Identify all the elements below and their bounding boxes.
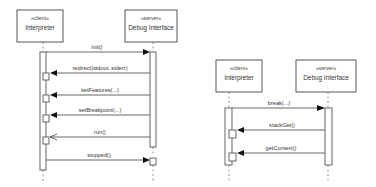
activation-bar — [150, 52, 156, 147]
lifeline-debug-interface: «server» Debug Interface — [125, 10, 177, 182]
filled-arrow-icon — [50, 70, 57, 76]
message-redirect: redirect(stdout, stderr) — [43, 65, 150, 80]
svg-text:setFeatures(...): setFeatures(...) — [81, 87, 119, 93]
stereotype-server: «server» — [141, 15, 161, 21]
lifeline-debug-interface: «server» Debug Interface — [296, 60, 356, 182]
activation-bar — [40, 52, 46, 170]
self-activation — [43, 137, 49, 144]
svg-text:run(): run() — [94, 129, 106, 135]
self-activation — [43, 115, 49, 122]
svg-text:stackGet(): stackGet() — [269, 122, 295, 128]
message-init: init() — [46, 44, 150, 55]
sequence-diagrams: «client» Interpreter «server» Debug Inte… — [0, 0, 376, 187]
message-get-context: getContext() — [229, 145, 325, 161]
filled-arrow-icon — [237, 150, 244, 156]
filled-arrow-icon — [50, 92, 57, 98]
svg-text:redirect(stdout, stderr): redirect(stdout, stderr) — [72, 65, 127, 71]
stereotype-server: «server» — [316, 65, 336, 71]
message-stopped: stopped() — [46, 152, 156, 165]
self-activation — [43, 73, 49, 80]
filled-arrow-icon — [143, 49, 150, 55]
self-activation — [43, 95, 49, 102]
message-set-features: setFeatures(...) — [43, 87, 150, 102]
message-break: break(...) — [232, 100, 325, 111]
filled-arrow-icon — [237, 127, 244, 133]
message-run: run() — [43, 129, 150, 144]
self-activation — [229, 130, 236, 138]
filled-arrow-icon — [50, 112, 57, 118]
lifeline-name: Debug Interface — [303, 74, 349, 82]
svg-text:init(): init() — [92, 44, 103, 50]
stereotype-client: «client» — [31, 15, 49, 21]
activation-bar — [150, 158, 156, 165]
activation-bar — [325, 108, 332, 165]
filled-arrow-icon — [317, 105, 325, 111]
svg-text:stopped(): stopped() — [87, 152, 111, 158]
stereotype-client: «client» — [230, 65, 248, 71]
lifeline-name: Debug Interface — [128, 24, 174, 32]
lifeline-interpreter: «client» Interpreter — [216, 60, 262, 182]
filled-arrow-icon — [143, 157, 150, 163]
message-set-breakpoint: setBreakpoint(...) — [43, 107, 150, 122]
lifeline-name: Interpreter — [25, 24, 55, 32]
svg-text:break(...): break(...) — [268, 100, 291, 106]
svg-text:setBreakpoint(...): setBreakpoint(...) — [79, 107, 122, 113]
lifeline-name: Interpreter — [224, 74, 254, 82]
left-sequence-diagram: «client» Interpreter «server» Debug Inte… — [17, 10, 177, 182]
message-stack-get: stackGet() — [229, 122, 325, 138]
svg-text:getContext(): getContext() — [266, 145, 297, 151]
self-activation — [229, 153, 236, 161]
right-sequence-diagram: «client» Interpreter «server» Debug Inte… — [216, 60, 356, 182]
